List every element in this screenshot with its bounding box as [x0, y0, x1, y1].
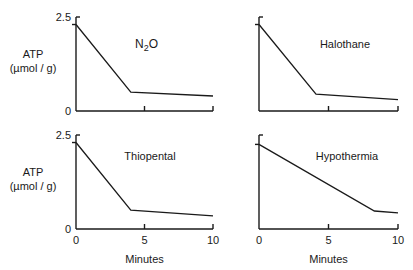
panel-1-y-tick-label: 0 [65, 105, 71, 117]
panel-4-x-label: Minutes [309, 253, 348, 265]
panel-3-x-tick-label: 10 [207, 234, 219, 246]
panel-1-y-tick-label: 2.5 [56, 11, 71, 23]
panel-3-x-label: Minutes [125, 253, 164, 265]
panel-4-x-tick-label: 0 [256, 234, 262, 246]
panel-1-atp-series-line [76, 25, 213, 97]
panel-3-x-tick-label: 0 [73, 234, 79, 246]
panel-1-title: N2O [135, 37, 158, 53]
panel-3-y-label-units: (µmol / g) [10, 180, 57, 192]
panel-4-title: Hypothermia [316, 150, 379, 162]
panel-4-x-tick-label: 5 [325, 234, 331, 246]
panel-1-y-label: ATP [23, 48, 44, 60]
panel-3-x-tick-label: 5 [141, 234, 147, 246]
chart-figure: 02.5ATP(µmol / g)N2OHalothane02.50510Min… [0, 0, 413, 270]
panel-4-x-tick-label: 10 [392, 234, 404, 246]
panel-3-title: Thiopental [124, 150, 175, 162]
panel-3-y-tick-label: 0 [65, 223, 71, 235]
panel-2-atp-series-line [259, 25, 398, 100]
panel-2-title: Halothane [320, 38, 370, 50]
panel-3-y-tick-label: 2.5 [56, 129, 71, 141]
panel-3-y-label: ATP [23, 166, 44, 178]
panel-1-y-label-units: (µmol / g) [10, 62, 57, 74]
